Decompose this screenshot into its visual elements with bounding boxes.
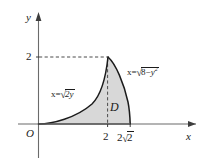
curve-label-left: x=√2y xyxy=(51,89,75,99)
x-axis-tick-label-2sqrt2: 2√2 xyxy=(117,131,134,143)
y-axis-tick-label-2: 2 xyxy=(26,51,32,62)
x-axis-tick-label-2: 2 xyxy=(103,131,109,142)
radicand: 2y xyxy=(65,89,75,99)
radical-group: √2y xyxy=(61,89,75,99)
curve-label-right: x=√8−y2 xyxy=(127,67,159,77)
equation-lhs: x= xyxy=(127,67,137,77)
radical-sign-icon: √ xyxy=(123,133,129,144)
y-axis-arrowhead xyxy=(36,12,42,21)
radicand: 8−y2 xyxy=(141,67,159,77)
figure-canvas: y x O 2 2 2√2 D x=√2y x=√8−y2 xyxy=(0,0,215,167)
region-label-D: D xyxy=(110,101,119,113)
x-axis-arrowhead xyxy=(188,121,196,127)
radical-group: √2 xyxy=(123,131,134,143)
radical-sign-icon: √ xyxy=(137,67,143,78)
y-axis-label: y xyxy=(26,12,31,23)
radical-sign-icon: √ xyxy=(61,89,67,100)
equation-lhs: x= xyxy=(51,89,61,99)
x-axis-label: x xyxy=(186,131,191,142)
origin-label: O xyxy=(26,128,34,139)
radicand-exponent: 2 xyxy=(155,66,158,72)
radical-group: √8−y2 xyxy=(137,67,159,77)
